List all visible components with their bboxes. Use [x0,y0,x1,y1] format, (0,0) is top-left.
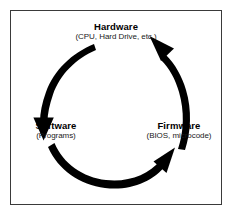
node-hardware-label: Hardware [0,22,232,32]
arrow-software-to-firmware [48,143,175,189]
cycle-diagram-figure: Hardware (CPU, Hard Drive, etc.) Softwar… [0,0,232,214]
node-firmware-sublabel: (BIOS, microcode) [133,132,225,141]
curved-arrow-right-icon [48,143,166,189]
node-software-sublabel: (Programs) [14,132,98,141]
node-software-label: Software [14,121,98,131]
node-firmware: Firmware (BIOS, microcode) [133,121,225,141]
node-hardware: Hardware (CPU, Hard Drive, etc.) [0,22,232,42]
curved-arrow-down-left-icon [40,44,96,122]
node-firmware-label: Firmware [133,121,225,131]
node-hardware-sublabel: (CPU, Hard Drive, etc.) [0,33,232,42]
node-software: Software (Programs) [14,121,98,141]
